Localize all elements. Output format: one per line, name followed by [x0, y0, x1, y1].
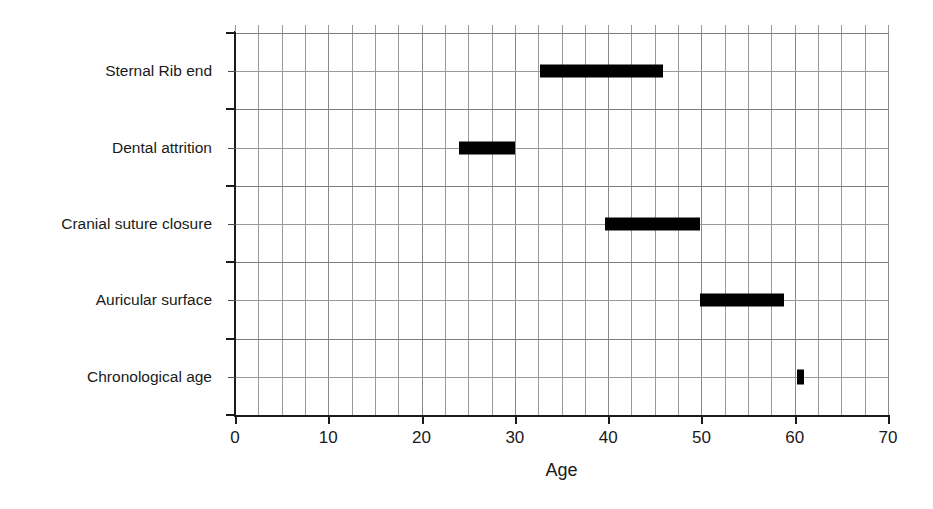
horizontal-gridline	[235, 224, 888, 225]
x-axis-tick	[422, 415, 424, 424]
category-label: Chronological age	[0, 368, 222, 386]
y-axis-minor-tick	[228, 300, 236, 301]
x-axis-tick-label: 30	[485, 428, 545, 448]
horizontal-gridline	[235, 33, 888, 34]
x-axis-top-tick	[818, 25, 819, 33]
x-axis-top-tick	[398, 25, 399, 33]
x-axis-top-tick	[771, 25, 772, 33]
horizontal-gridline	[235, 148, 888, 149]
x-axis-top-tick	[585, 25, 586, 33]
x-axis-top-tick	[468, 25, 469, 33]
horizontal-gridline	[235, 377, 888, 378]
x-axis-top-tick	[492, 25, 493, 33]
horizontal-gridline	[235, 186, 888, 187]
x-axis-tick-label: 50	[671, 428, 731, 448]
x-axis-line	[234, 415, 889, 417]
x-axis-top-tick	[305, 25, 306, 33]
x-axis-title: Age	[235, 460, 888, 481]
x-axis-tick-label: 60	[765, 428, 825, 448]
range-bar	[540, 65, 663, 78]
horizontal-gridline	[235, 339, 888, 340]
x-axis-top-tick	[562, 25, 563, 33]
x-axis-top-tick	[725, 25, 726, 33]
x-axis-top-tick	[608, 25, 609, 33]
horizontal-gridline	[235, 262, 888, 263]
x-axis-top-tick	[375, 25, 376, 33]
x-axis-top-tick	[795, 25, 796, 33]
range-bar	[700, 294, 785, 307]
y-axis-major-tick	[226, 338, 236, 340]
x-axis-top-tick	[748, 25, 749, 33]
plot-area	[235, 33, 888, 415]
x-axis-tick-label: 20	[392, 428, 452, 448]
x-axis-tick	[608, 415, 610, 424]
x-axis-top-tick	[678, 25, 679, 33]
vertical-gridline	[888, 33, 889, 415]
x-axis-top-tick	[701, 25, 702, 33]
y-axis-major-tick	[226, 108, 236, 110]
x-axis-top-tick	[538, 25, 539, 33]
x-axis-top-tick	[888, 25, 889, 33]
y-axis-minor-tick	[228, 377, 236, 378]
x-axis-tick	[795, 415, 797, 424]
x-axis-tick	[235, 415, 237, 424]
horizontal-gridline	[235, 109, 888, 110]
y-axis-major-tick	[226, 185, 236, 187]
x-axis-top-tick	[352, 25, 353, 33]
y-axis-major-tick	[226, 261, 236, 263]
x-axis-top-tick	[655, 25, 656, 33]
category-label: Auricular surface	[0, 291, 222, 309]
x-axis-tick	[701, 415, 703, 424]
x-axis-tick-label: 10	[298, 428, 358, 448]
x-axis-top-tick	[445, 25, 446, 33]
category-label: Cranial suture closure	[0, 215, 222, 233]
x-axis-top-tick	[631, 25, 632, 33]
x-axis-tick-label: 70	[858, 428, 918, 448]
x-axis-tick	[328, 415, 330, 424]
y-axis-minor-tick	[228, 148, 236, 149]
x-axis-top-tick	[328, 25, 329, 33]
category-axis-labels: Sternal Rib endDental attritionCranial s…	[0, 0, 222, 509]
category-label: Sternal Rib end	[0, 62, 222, 80]
x-axis-top-tick	[282, 25, 283, 33]
y-axis-minor-tick	[228, 224, 236, 225]
y-axis-minor-tick	[228, 71, 236, 72]
x-axis-tick	[888, 415, 890, 424]
x-axis-top-tick	[515, 25, 516, 33]
age-estimation-range-chart: 010203040506070 Sternal Rib endDental at…	[0, 0, 933, 509]
x-axis-top-tick	[258, 25, 259, 33]
y-axis-major-tick	[226, 32, 236, 34]
x-axis-tick-label: 40	[578, 428, 638, 448]
x-axis-top-tick	[422, 25, 423, 33]
x-axis-top-tick	[841, 25, 842, 33]
range-bar	[797, 369, 804, 384]
category-label: Dental attrition	[0, 139, 222, 157]
range-bar	[605, 218, 700, 231]
horizontal-gridline	[235, 300, 888, 301]
x-axis-tick	[515, 415, 517, 424]
range-bar	[459, 141, 515, 154]
x-axis-top-tick	[865, 25, 866, 33]
